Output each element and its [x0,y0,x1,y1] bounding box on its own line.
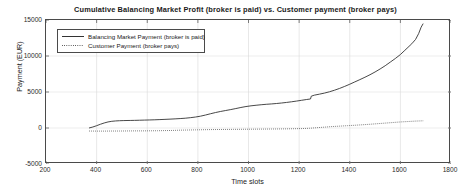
x-tick-label: 600 [126,166,166,173]
x-tick-label: 1800 [430,166,470,173]
legend-item: Customer Payment (broker pays) [61,41,201,50]
series-line-1 [89,121,423,131]
x-tick-label: 200 [25,166,65,173]
y-tick-label: 10000 [2,52,42,59]
x-tick-label: 1000 [228,166,268,173]
y-tick-label: 15000 [2,16,42,23]
y-tick-label: 5000 [2,88,42,95]
chart-title: Cumulative Balancing Market Profit (brok… [0,5,471,14]
y-tick-label: 0 [2,124,42,131]
legend-label: Balancing Market Payment (broker is paid… [88,33,205,40]
x-tick-label: 400 [76,166,116,173]
y-axis-ticks: -5000050001000015000 [0,19,42,163]
x-axis-label: Time slots [45,177,450,186]
legend-label: Customer Payment (broker pays) [88,42,179,49]
chart-legend: Balancing Market Payment (broker is paid… [57,29,205,53]
x-tick-label: 1200 [278,166,318,173]
x-tick-label: 1400 [329,166,369,173]
legend-line-dotted-icon [61,42,85,49]
chart-figure: Cumulative Balancing Market Profit (brok… [0,0,471,192]
legend-item: Balancing Market Payment (broker is paid… [61,32,201,41]
x-tick-label: 800 [177,166,217,173]
x-tick-label: 1600 [379,166,419,173]
legend-line-solid-icon [61,33,85,40]
